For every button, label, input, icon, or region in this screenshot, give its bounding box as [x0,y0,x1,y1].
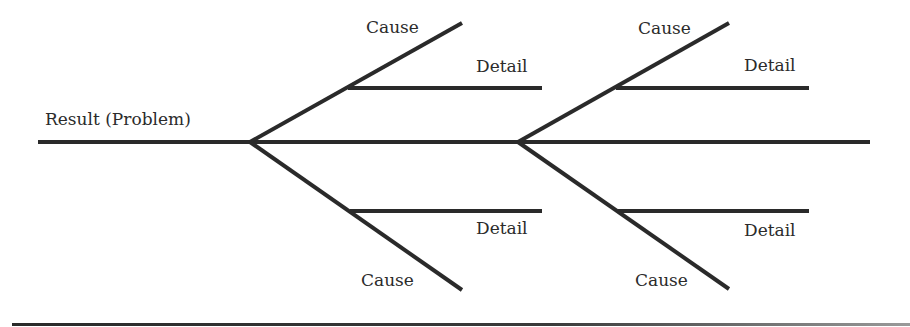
cause-label-lower-left: Cause [361,272,414,289]
fishbone-diagram: Result (Problem) Cause Detail Detail Cau… [0,0,910,327]
detail-label-lower-left: Detail [476,220,528,237]
cause-label-upper-right: Cause [638,20,691,37]
detail-label-upper-right: Detail [744,57,796,74]
result-label: Result (Problem) [45,111,191,128]
cause-label-upper-left: Cause [366,19,419,36]
bottom-rule-divider [12,323,910,326]
cause-bone-lower-left [250,142,462,290]
cause-bone-upper-right [518,23,729,142]
cause-label-lower-right: Cause [635,272,688,289]
cause-bone-lower-right [518,142,729,289]
detail-label-upper-left: Detail [476,58,528,75]
fishbone-lines [0,0,910,327]
detail-label-lower-right: Detail [744,222,796,239]
cause-bone-upper-left [250,23,462,142]
